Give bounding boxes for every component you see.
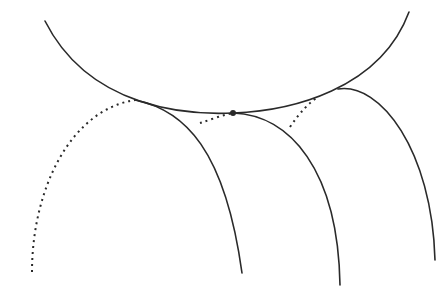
middle-curve-solid <box>233 113 340 285</box>
left-curve-dotted-extension <box>32 100 135 272</box>
tangent-point-marker <box>230 110 236 116</box>
envelope-curve <box>45 12 409 113</box>
right-curve-solid <box>338 89 435 260</box>
envelope-diagram <box>0 0 447 301</box>
middle-curve-dotted-extension <box>200 113 233 123</box>
left-curve-solid <box>135 100 242 273</box>
